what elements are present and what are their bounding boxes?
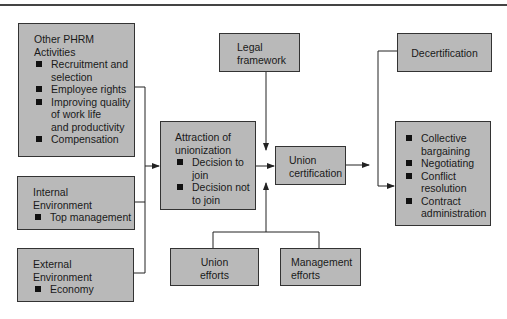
box-title: Attraction of — [175, 131, 255, 144]
list-item: Compensation — [34, 133, 134, 146]
box-title: Environment — [33, 271, 133, 284]
square-bullet-icon — [36, 136, 42, 142]
square-bullet-icon — [36, 99, 42, 105]
legal-framework-box: Legal framework — [219, 33, 300, 72]
box-title: Other PHRM — [34, 33, 134, 46]
other-phrm-activities-box: Other PHRM Activities Recruitment andsel… — [18, 23, 135, 157]
list-item: Improving qualityof work lifeand product… — [34, 96, 134, 134]
list-item: Conflictresolution — [404, 170, 490, 195]
list-item: Top management — [33, 211, 134, 224]
internal-environment-box: Internal Environment Top management — [17, 176, 135, 230]
square-bullet-icon — [177, 159, 183, 165]
outcomes-box: Collectivebargaining Negotiating Conflic… — [395, 121, 491, 226]
square-bullet-icon — [406, 173, 412, 179]
box-title: External — [33, 258, 133, 271]
list-item: Economy — [33, 283, 133, 296]
list-item: Negotiating — [404, 157, 490, 170]
union-efforts-box: Union efforts — [170, 248, 259, 286]
square-bullet-icon — [406, 135, 412, 141]
square-bullet-icon — [406, 160, 412, 166]
box-title: Internal — [33, 186, 134, 199]
list-item: Employee rights — [34, 83, 134, 96]
square-bullet-icon — [36, 86, 42, 92]
list-item: Decision tojoin — [175, 156, 255, 181]
list-item: Recruitment andselection — [34, 58, 134, 83]
square-bullet-icon — [35, 214, 41, 220]
box-title: Environment — [33, 199, 134, 212]
list-item: Decision notto join — [175, 181, 255, 206]
square-bullet-icon — [406, 198, 412, 204]
external-environment-box: External Environment Economy — [17, 248, 134, 302]
list-item: Contractadministration — [404, 195, 490, 220]
square-bullet-icon — [36, 61, 42, 67]
attraction-of-unionization-box: Attraction of unionization Decision tojo… — [160, 121, 256, 210]
management-efforts-box: Management efforts — [280, 248, 361, 286]
square-bullet-icon — [177, 184, 183, 190]
list-item: Collectivebargaining — [404, 132, 490, 157]
decertification-box: Decertification — [397, 33, 492, 72]
square-bullet-icon — [35, 286, 41, 292]
box-title: unionization — [175, 144, 255, 157]
box-title: Activities — [34, 46, 134, 59]
union-certification-box: Union certification — [275, 146, 346, 185]
